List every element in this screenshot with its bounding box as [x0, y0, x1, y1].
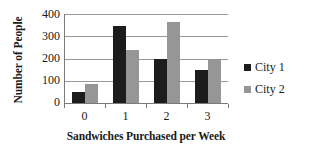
- y-tick-label: 0: [26, 96, 60, 108]
- legend-swatch-icon: [244, 64, 251, 71]
- bar-city-1: [195, 70, 208, 103]
- x-tick: [146, 104, 147, 108]
- bar-chart: Number of People 400 300 200 100 0: [0, 0, 311, 158]
- bar-city-1: [113, 26, 126, 103]
- legend-entry-city-1: City 1: [244, 56, 310, 78]
- y-tick-label: 200: [26, 52, 60, 64]
- bar-group: [147, 14, 188, 103]
- x-axis-title: Sandwiches Purchased per Week: [30, 130, 262, 142]
- x-tick: [187, 104, 188, 108]
- bar-city-2: [208, 59, 221, 104]
- x-tick-label: 3: [187, 109, 228, 125]
- legend-entry-city-2: City 2: [244, 78, 310, 100]
- legend-swatch-icon: [244, 86, 251, 93]
- y-tick-label: 100: [26, 74, 60, 86]
- bar-group: [106, 14, 147, 103]
- bar-city-2: [167, 22, 180, 103]
- x-tick: [64, 104, 65, 108]
- x-tick-label: 0: [64, 109, 105, 125]
- bar-city-1: [72, 92, 85, 103]
- x-axis-tick-labels: 0 1 2 3: [64, 109, 228, 125]
- x-tick-label: 2: [146, 109, 187, 125]
- x-tick: [228, 104, 229, 108]
- y-axis-tick-labels: 400 300 200 100 0: [26, 8, 60, 104]
- bar-city-2: [126, 50, 139, 103]
- legend-label: City 1: [255, 61, 285, 74]
- bar-city-2: [85, 84, 98, 103]
- legend: City 1 City 2: [244, 56, 310, 100]
- plot-area: [64, 14, 228, 104]
- bar-city-1: [154, 59, 167, 104]
- x-axis-ticks: [64, 104, 229, 108]
- legend-label: City 2: [255, 83, 285, 96]
- y-tick-label: 400: [26, 8, 60, 20]
- x-tick: [105, 104, 106, 108]
- x-tick-label: 1: [105, 109, 146, 125]
- y-tick-label: 300: [26, 30, 60, 42]
- bar-group: [187, 14, 228, 103]
- bar-group: [65, 14, 106, 103]
- bars-layer: [65, 14, 228, 103]
- y-axis-title: Number of People: [12, 4, 24, 116]
